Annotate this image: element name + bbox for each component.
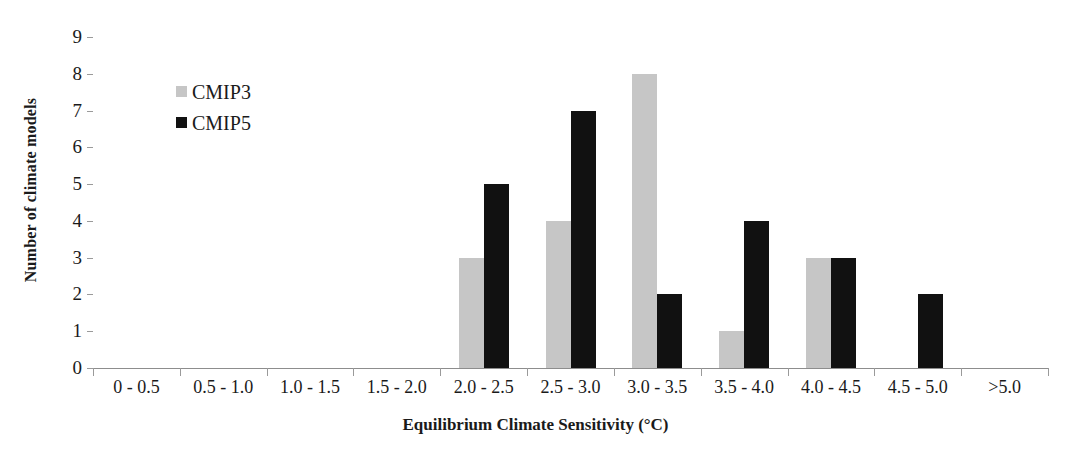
bar-cmip3-6 [632,74,657,368]
legend-entry-cmip3: CMIP3 [176,76,251,107]
bar-cmip5-6 [657,294,682,368]
legend-swatch-icon-cmip5 [176,117,187,128]
x-tick-label-3: 1.5 - 2.0 [353,377,440,398]
x-tick-label-6: 3.0 - 3.5 [614,377,701,398]
y-tick-label-1: 1 [48,321,82,340]
x-tick-mark-2 [267,368,268,376]
bar-cmip3-7 [719,331,744,368]
x-tick-mark-0 [93,368,94,376]
chart-figure: Number of climate models 0123456789 0 - … [0,0,1071,462]
bar-cmip5-8 [831,258,856,368]
x-tick-mark-1 [180,368,181,376]
x-tick-mark-11 [1048,368,1049,376]
legend-swatch-icon-cmip3 [176,86,187,97]
chart-legend: CMIP3 CMIP5 [176,76,251,138]
x-tick-label-1: 0.5 - 1.0 [180,377,267,398]
x-tick-label-9: 4.5 - 5.0 [874,377,961,398]
bar-cmip5-4 [484,184,509,368]
bar-cmip3-8 [806,258,831,368]
x-axis-line [93,368,1048,369]
legend-entry-cmip5: CMIP5 [176,107,251,138]
bar-cmip5-5 [571,111,596,368]
x-tick-mark-4 [440,368,441,376]
x-tick-label-10: >5.0 [961,377,1048,398]
legend-label-cmip3: CMIP3 [192,82,251,102]
y-tick-label-5: 5 [48,174,82,193]
y-tick-label-4: 4 [48,211,82,230]
x-tick-mark-5 [527,368,528,376]
bar-cmip3-5 [546,221,571,368]
y-tick-label-8: 8 [48,64,82,83]
bar-cmip3-4 [459,258,484,368]
x-tick-mark-7 [701,368,702,376]
bar-cmip5-7 [744,221,769,368]
y-tick-label-6: 6 [48,137,82,156]
x-tick-label-4: 2.0 - 2.5 [440,377,527,398]
y-axis-title-text: Number of climate models [22,98,40,282]
y-axis-title: Number of climate models [16,0,46,380]
x-tick-mark-3 [353,368,354,376]
x-tick-mark-10 [961,368,962,376]
y-tick-label-2: 2 [48,284,82,303]
x-tick-mark-6 [614,368,615,376]
y-tick-label-0: 0 [48,358,82,377]
x-axis-title: Equilibrium Climate Sensitivity (°C) [0,415,1071,435]
x-tick-label-2: 1.0 - 1.5 [267,377,354,398]
legend-label-cmip5: CMIP5 [192,113,251,133]
x-tick-mark-8 [788,368,789,376]
y-tick-label-7: 7 [48,101,82,120]
x-tick-label-0: 0 - 0.5 [93,377,180,398]
y-tick-label-9: 9 [48,27,82,46]
y-tick-label-3: 3 [48,248,82,267]
bar-cmip5-9 [918,294,943,368]
x-tick-label-8: 4.0 - 4.5 [788,377,875,398]
x-tick-mark-9 [874,368,875,376]
x-tick-label-7: 3.5 - 4.0 [701,377,788,398]
x-tick-label-5: 2.5 - 3.0 [527,377,614,398]
